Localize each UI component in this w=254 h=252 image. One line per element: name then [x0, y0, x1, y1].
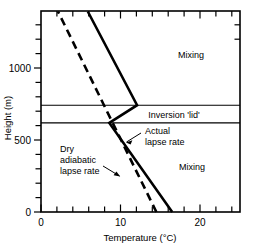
- chart-figure: 0 10 20 0 500 1000 Temperature (°C) Heig…: [0, 0, 254, 252]
- mixing-upper-label: Mixing: [178, 50, 204, 60]
- x-tick-label-0: 0: [38, 217, 44, 228]
- x-tick-label-10: 10: [115, 217, 127, 228]
- y-tick-label-1000: 1000: [9, 63, 32, 74]
- x-axis-title: Temperature (°C): [104, 232, 177, 243]
- inversion-lid-label: Inversion 'lid': [148, 110, 200, 120]
- y-tick-label-500: 500: [14, 135, 31, 146]
- dry-adiabatic-label-line3: lapse rate: [60, 166, 100, 176]
- lapse-rate-chart: 0 10 20 0 500 1000 Temperature (°C) Heig…: [0, 0, 254, 252]
- y-axis-title: Height (m): [2, 96, 13, 140]
- x-tick-label-20: 20: [194, 217, 206, 228]
- actual-lapse-rate-label-line2: lapse rate: [145, 137, 185, 147]
- y-tick-label-0: 0: [25, 207, 31, 218]
- mixing-lower-label: Mixing: [179, 162, 205, 172]
- dry-adiabatic-label-line1: Dry: [60, 144, 74, 154]
- actual-lapse-rate-label-line1: Actual: [145, 126, 170, 136]
- dry-adiabatic-label-line2: adiabatic: [60, 155, 97, 165]
